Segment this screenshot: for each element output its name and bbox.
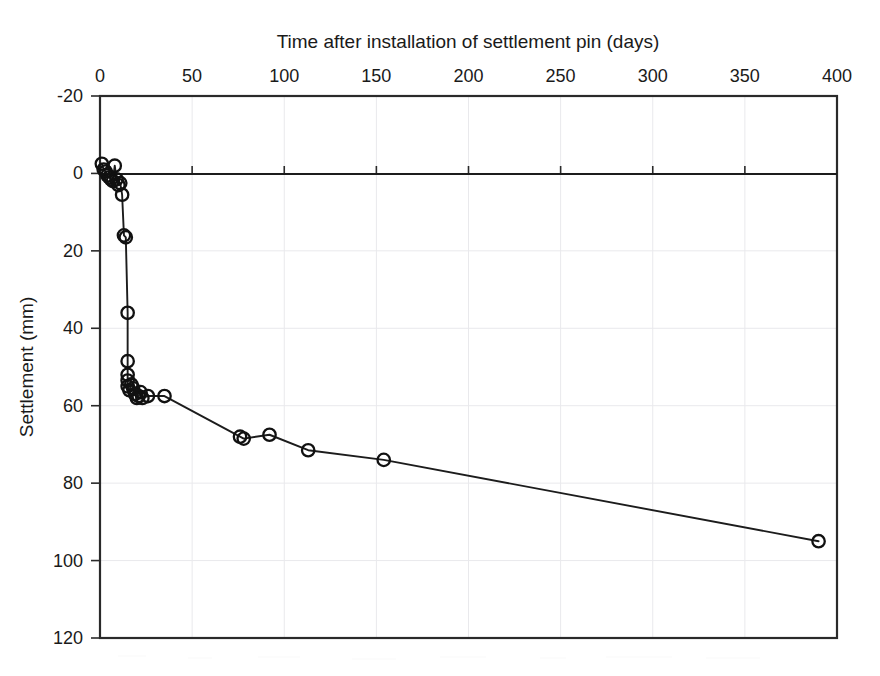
x-tick-label: 300 (638, 66, 668, 86)
data-point (109, 159, 121, 171)
data-point (142, 390, 154, 402)
data-point (812, 535, 824, 547)
y-axis-title-label: Settlement (mm) (16, 297, 37, 437)
y-axis-title: Settlement (mm) (16, 297, 37, 437)
chart-background (0, 0, 880, 676)
data-point (238, 432, 250, 444)
y-tick-label: 20 (63, 241, 83, 261)
chart-canvas: Time after installation of settlement pi… (0, 0, 880, 676)
data-point (263, 429, 275, 441)
data-point (378, 454, 390, 466)
data-point (114, 177, 126, 189)
y-tick-label: -20 (57, 86, 83, 106)
data-point (120, 231, 132, 243)
x-tick-label: 250 (546, 66, 576, 86)
data-point (121, 307, 133, 319)
settlement-chart: Time after installation of settlement pi… (0, 0, 880, 676)
y-tick-label: 60 (63, 396, 83, 416)
x-tick-label: 350 (730, 66, 760, 86)
x-tick-label: 100 (269, 66, 299, 86)
y-tick-label: 120 (53, 628, 83, 648)
x-tick-label: 200 (453, 66, 483, 86)
data-point (302, 444, 314, 456)
x-tick-label: 50 (182, 66, 202, 86)
y-tick-label: 100 (53, 551, 83, 571)
data-point (121, 355, 133, 367)
x-tick-label: 150 (361, 66, 391, 86)
chart-title: Time after installation of settlement pi… (277, 31, 660, 52)
x-tick-label: 400 (822, 66, 852, 86)
y-tick-label: 40 (63, 318, 83, 338)
x-tick-label: 0 (95, 66, 105, 86)
data-point (116, 189, 128, 201)
y-tick-label: 80 (63, 473, 83, 493)
y-tick-label: 0 (73, 163, 83, 183)
data-point (158, 390, 170, 402)
